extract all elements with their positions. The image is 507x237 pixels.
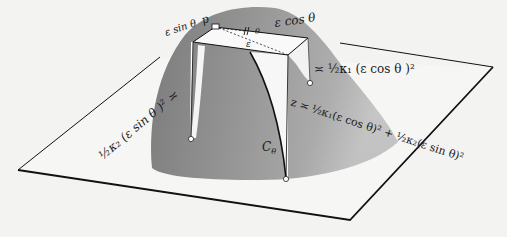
paraboloid-diagram: p ε sin θ ε cos θ θ ε ≍ ½κ₁ (ε cos θ )² … (0, 0, 507, 237)
label-k1-term: ≍ ½κ₁ (ε cos θ )² (314, 62, 415, 76)
point-marker-left (188, 136, 193, 141)
point-marker-right (307, 80, 312, 85)
label-theta-angle: θ (255, 27, 260, 36)
point-p-marker (212, 24, 219, 29)
label-eps: ε (246, 39, 251, 49)
point-marker-center (283, 176, 288, 181)
